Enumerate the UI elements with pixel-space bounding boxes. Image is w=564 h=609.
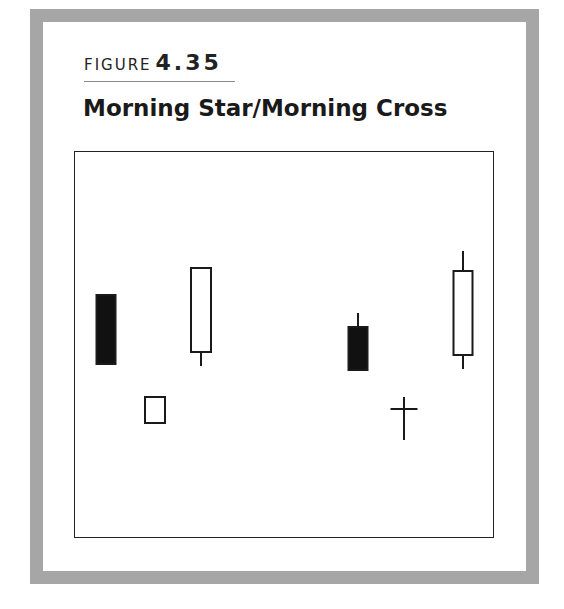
candle-body	[454, 271, 473, 355]
candle-body	[145, 397, 165, 423]
candle-group-morning-cross	[349, 251, 473, 440]
candle-group-morning-star	[97, 268, 212, 423]
candle-bearish	[349, 313, 368, 370]
candle-body	[349, 327, 368, 370]
candle-bearish	[97, 295, 116, 364]
candle-body	[97, 295, 116, 364]
candle-bullish	[454, 251, 473, 369]
candlestick-chart	[0, 0, 564, 609]
candle-bullish	[191, 268, 211, 366]
candle-doji	[391, 397, 418, 440]
candle-bullish	[145, 397, 165, 423]
candle-body	[191, 268, 211, 352]
